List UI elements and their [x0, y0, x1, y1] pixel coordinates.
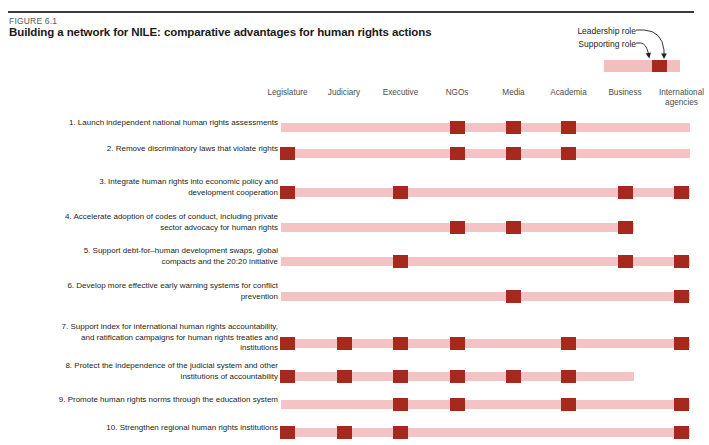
figure-title: Building a network for NILE: comparative… — [9, 26, 431, 38]
leadership-cell — [393, 426, 408, 439]
leadership-cell — [674, 290, 689, 303]
leadership-cell — [506, 370, 521, 383]
row-label: 10. Strengthen regional human rights ins… — [53, 423, 278, 434]
leadership-cell — [674, 186, 689, 199]
leadership-cell — [506, 221, 521, 234]
leadership-cell — [337, 370, 352, 383]
row-label: 2. Remove discriminatory laws that viola… — [53, 144, 278, 155]
row-bar — [281, 123, 690, 132]
leadership-cell — [450, 337, 465, 350]
leadership-cell — [393, 370, 408, 383]
column-header-ngos: NGOs — [429, 88, 485, 98]
leadership-cell — [393, 337, 408, 350]
leadership-cell — [280, 147, 295, 160]
chart-rows: 1. Launch independent national human rig… — [0, 115, 702, 445]
leadership-cell — [280, 337, 295, 350]
row-label: 3. Integrate human rights into economic … — [53, 177, 278, 198]
leadership-cell — [506, 290, 521, 303]
leadership-cell — [561, 337, 576, 350]
row-label: 4. Accelerate adoption of codes of condu… — [53, 212, 278, 233]
legend: Leadership role Supporting role — [540, 26, 702, 76]
column-header-judiciary: Judiciary — [316, 88, 372, 98]
leadership-cell — [674, 398, 689, 411]
leadership-cell — [674, 426, 689, 439]
leadership-cell — [393, 255, 408, 268]
figure-number: FIGURE 6.1 — [9, 16, 57, 26]
leadership-cell — [337, 337, 352, 350]
column-header-academia: Academia — [541, 88, 597, 98]
column-header-business: Business — [597, 88, 653, 98]
leadership-cell — [674, 337, 689, 350]
row-bar — [281, 292, 690, 301]
leadership-cell — [393, 186, 408, 199]
leadership-cell — [618, 221, 633, 234]
row-label: 5. Support debt-for–human development sw… — [53, 246, 278, 267]
column-header-executive: Executive — [373, 88, 429, 98]
row-label: 8. Protect the independence of the judic… — [53, 361, 278, 382]
leadership-cell — [450, 398, 465, 411]
leadership-cell — [450, 121, 465, 134]
leadership-cell — [561, 121, 576, 134]
leadership-cell — [450, 147, 465, 160]
leadership-cell — [393, 398, 408, 411]
header-rule — [8, 11, 694, 13]
row-bar — [281, 149, 690, 158]
row-label: 1. Launch independent national human rig… — [53, 118, 278, 129]
row-bar — [281, 400, 690, 409]
row-label: 7. Support index for international human… — [53, 322, 278, 354]
leadership-cell — [450, 221, 465, 234]
leadership-cell — [450, 370, 465, 383]
legend-swatch-leadership — [652, 60, 667, 72]
leadership-cell — [280, 186, 295, 199]
leadership-cell — [674, 255, 689, 268]
column-header-media: Media — [486, 88, 542, 98]
legend-swatch-supporting — [604, 60, 680, 72]
row-label: 9. Promote human rights norms through th… — [53, 395, 278, 406]
column-header-legislature: Legislature — [260, 88, 316, 98]
leadership-cell — [618, 255, 633, 268]
column-headers: LegislatureJudiciaryExecutiveNGOsMediaAc… — [0, 88, 702, 112]
column-header-international-agencies: International agencies — [654, 88, 709, 107]
leadership-cell — [337, 426, 352, 439]
leadership-cell — [280, 370, 295, 383]
row-label: 6. Develop more effective early warning … — [53, 281, 278, 302]
leadership-cell — [506, 121, 521, 134]
leadership-cell — [561, 147, 576, 160]
leadership-cell — [561, 398, 576, 411]
leadership-cell — [506, 147, 521, 160]
leadership-cell — [280, 426, 295, 439]
leadership-cell — [561, 370, 576, 383]
leadership-cell — [618, 186, 633, 199]
